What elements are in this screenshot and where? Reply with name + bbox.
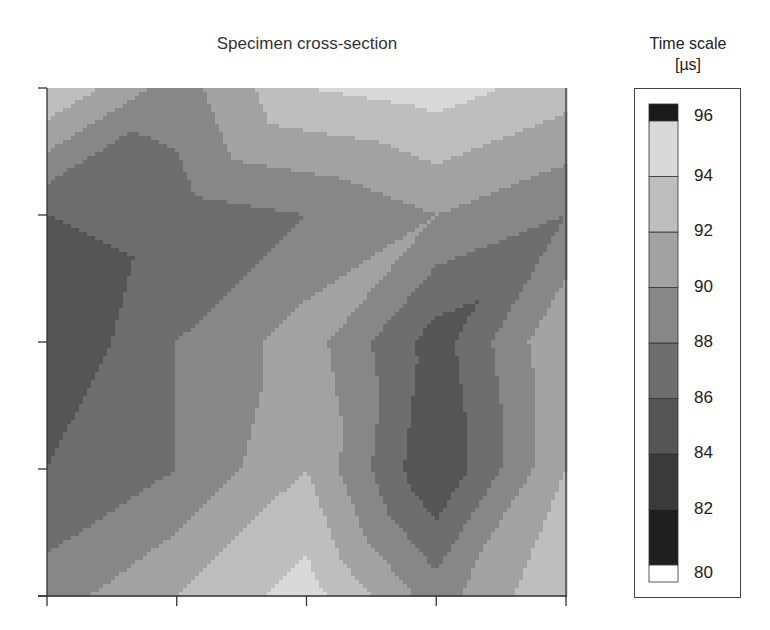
colorbar-tick-label: 86 <box>694 388 713 408</box>
colorbar-tick-label: 84 <box>694 443 713 463</box>
colorbar-tick-label: 94 <box>694 166 713 186</box>
colorbar-tick-label: 90 <box>694 277 713 297</box>
colorbar-tick-label: 82 <box>694 499 713 519</box>
contour-plot <box>0 0 630 630</box>
colorbar-tick-label: 92 <box>694 221 713 241</box>
colorbar-frame <box>634 88 741 598</box>
colorbar-tick-label: 80 <box>694 563 713 583</box>
colorbar-title: Time scale [µs] <box>628 33 748 75</box>
colorbar-unit: [µs] <box>628 54 748 75</box>
colorbar-title-text: Time scale <box>628 33 748 54</box>
colorbar-tick-label: 88 <box>694 332 713 352</box>
colorbar-tick-label: 96 <box>694 106 713 126</box>
contour-fill <box>47 88 568 597</box>
